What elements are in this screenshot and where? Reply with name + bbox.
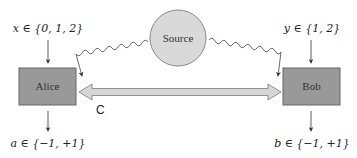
alice-label: Alice: [36, 80, 60, 92]
channel-label: C: [96, 103, 105, 117]
alice-input-label: x ∈ {0, 1, 2}: [13, 22, 83, 35]
bell-scenario-diagram: Source x ∈ {0, 1, 2} Alice a ∈ {−1, +1} …: [0, 0, 357, 158]
bob-node: Bob: [283, 68, 340, 105]
alice-output-label: a ∈ {−1, +1}: [10, 137, 85, 150]
source-node: Source: [150, 10, 206, 66]
bob-input-label: y ∈ {1, 2}: [283, 22, 340, 35]
bob-label: Bob: [302, 80, 321, 92]
bob-output-label: b ∈ {−1, +1}: [274, 137, 350, 150]
wavy-arrow-to-alice: [76, 40, 148, 76]
channel-double-arrow: [79, 84, 281, 100]
source-label: Source: [163, 32, 194, 44]
wavy-arrow-to-bob: [209, 38, 281, 76]
alice-node: Alice: [19, 68, 76, 105]
